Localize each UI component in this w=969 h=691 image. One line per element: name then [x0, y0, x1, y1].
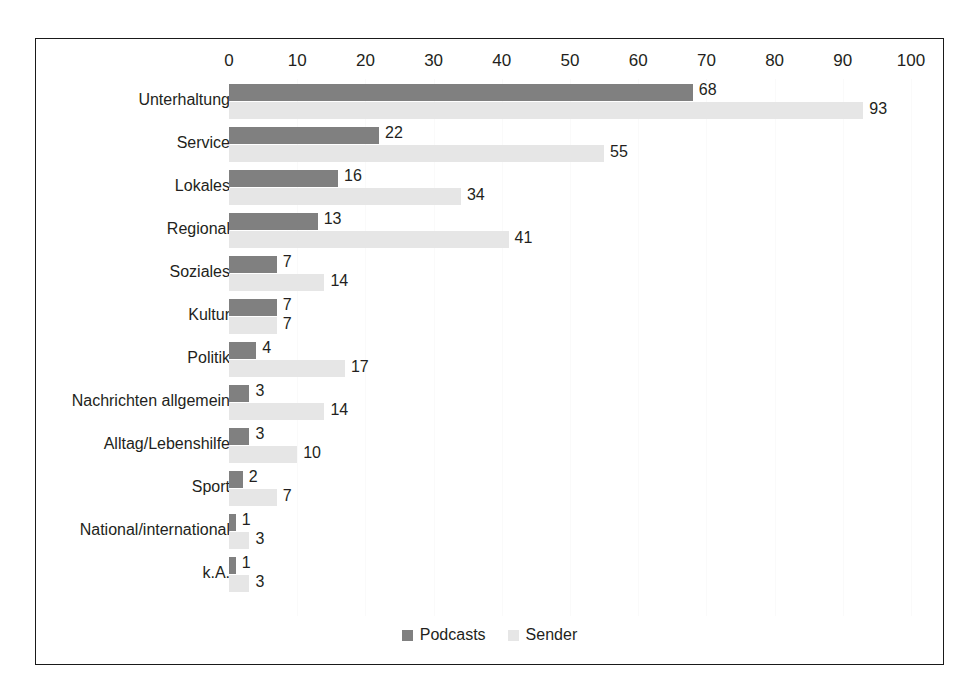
bar-sender: [229, 102, 863, 119]
x-tick-30: 30: [424, 51, 443, 71]
bar-sender: [229, 188, 461, 205]
bar-sender: [229, 360, 345, 377]
category-label: Sport: [192, 478, 230, 496]
chart-frame: 0102030405060708090100 Unterhaltung6893S…: [35, 38, 944, 665]
x-tick-10: 10: [288, 51, 307, 71]
bar-row: Nachrichten allgemein314: [36, 382, 943, 425]
category-label: Politik: [187, 349, 230, 367]
bar-podcasts: [229, 127, 379, 144]
category-label: Soziales: [170, 263, 230, 281]
bar-podcasts: [229, 256, 277, 273]
x-tick-0: 0: [224, 51, 233, 71]
bar-row: National/international13: [36, 511, 943, 554]
category-label: Service: [177, 134, 230, 152]
x-tick-40: 40: [492, 51, 511, 71]
bar-sender: [229, 231, 509, 248]
bar-row: Soziales714: [36, 253, 943, 296]
value-label-sender: 3: [255, 530, 264, 548]
category-label: Kultur: [188, 306, 230, 324]
value-label-sender: 41: [515, 229, 533, 247]
value-label-podcasts: 3: [255, 382, 264, 400]
bar-podcasts: [229, 342, 256, 359]
bar-row: Alltag/Lebenshilfe310: [36, 425, 943, 468]
value-label-podcasts: 7: [283, 253, 292, 271]
value-label-sender: 14: [330, 272, 348, 290]
bar-row: Politik417: [36, 339, 943, 382]
legend-label: Sender: [526, 626, 578, 644]
value-label-podcasts: 7: [283, 296, 292, 314]
category-label: National/international: [80, 521, 230, 539]
bar-sender: [229, 489, 277, 506]
bar-podcasts: [229, 84, 693, 101]
value-label-sender: 10: [303, 444, 321, 462]
legend-swatch-icon: [508, 630, 519, 641]
value-label-podcasts: 1: [242, 511, 251, 529]
x-tick-70: 70: [697, 51, 716, 71]
value-label-sender: 7: [283, 487, 292, 505]
x-tick-20: 20: [356, 51, 375, 71]
value-label-sender: 93: [869, 100, 887, 118]
value-label-podcasts: 4: [262, 339, 271, 357]
value-label-sender: 14: [330, 401, 348, 419]
x-tick-90: 90: [833, 51, 852, 71]
bar-row: Lokales1634: [36, 167, 943, 210]
bar-sender: [229, 532, 249, 549]
bar-sender: [229, 274, 324, 291]
category-label: k.A.: [202, 564, 230, 582]
x-tick-50: 50: [561, 51, 580, 71]
value-label-podcasts: 1: [242, 554, 251, 572]
bar-row: Sport27: [36, 468, 943, 511]
bar-podcasts: [229, 557, 236, 574]
chart-legend: PodcastsSender: [36, 626, 943, 644]
legend-label: Podcasts: [420, 626, 486, 644]
category-label: Lokales: [175, 177, 230, 195]
category-label: Nachrichten allgemein: [72, 392, 230, 410]
bar-podcasts: [229, 428, 249, 445]
value-label-sender: 55: [610, 143, 628, 161]
value-label-podcasts: 2: [249, 468, 258, 486]
chart-plot-area: 0102030405060708090100 Unterhaltung6893S…: [36, 39, 943, 664]
value-label-podcasts: 13: [324, 210, 342, 228]
category-label: Alltag/Lebenshilfe: [104, 435, 230, 453]
bar-row: Service2255: [36, 124, 943, 167]
bar-podcasts: [229, 385, 249, 402]
value-label-sender: 17: [351, 358, 369, 376]
x-tick-100: 100: [897, 51, 925, 71]
bar-podcasts: [229, 299, 277, 316]
value-label-sender: 34: [467, 186, 485, 204]
value-label-sender: 3: [255, 573, 264, 591]
bar-sender: [229, 575, 249, 592]
bar-row: k.A.13: [36, 554, 943, 597]
category-label: Unterhaltung: [138, 91, 230, 109]
bar-row: Unterhaltung6893: [36, 81, 943, 124]
legend-item-sender[interactable]: Sender: [508, 626, 578, 644]
value-label-podcasts: 68: [699, 81, 717, 99]
bar-sender: [229, 446, 297, 463]
value-label-sender: 7: [283, 315, 292, 333]
bar-sender: [229, 317, 277, 334]
bar-podcasts: [229, 471, 243, 488]
bar-sender: [229, 145, 604, 162]
category-label: Regional: [167, 220, 230, 238]
bar-podcasts: [229, 514, 236, 531]
value-label-podcasts: 16: [344, 167, 362, 185]
x-tick-60: 60: [629, 51, 648, 71]
bar-podcasts: [229, 170, 338, 187]
x-tick-80: 80: [765, 51, 784, 71]
bar-row: Regional1341: [36, 210, 943, 253]
bar-row: Kultur77: [36, 296, 943, 339]
bar-podcasts: [229, 213, 318, 230]
value-label-podcasts: 3: [255, 425, 264, 443]
value-label-podcasts: 22: [385, 124, 403, 142]
bar-sender: [229, 403, 324, 420]
legend-swatch-icon: [402, 630, 413, 641]
legend-item-podcasts[interactable]: Podcasts: [402, 626, 486, 644]
